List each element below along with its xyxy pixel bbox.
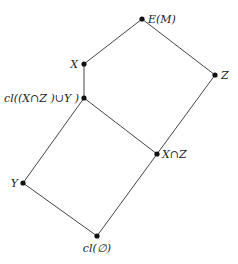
- node-label-z: Z: [220, 69, 229, 82]
- edge-cl_xz_y-x_cap_z: [84, 98, 157, 154]
- node-top: [139, 16, 144, 21]
- node-label-x: X: [69, 58, 79, 71]
- node-label-bottom: cl(∅): [83, 242, 111, 255]
- node-x: [81, 61, 86, 66]
- node-label-top: E(M): [147, 13, 176, 26]
- node-label-cl_xz_y: cl((X∩Z )∪Y ): [4, 92, 79, 105]
- node-label-y: Y: [11, 177, 20, 190]
- node-z: [212, 72, 217, 77]
- edge-y-bottom: [23, 183, 97, 236]
- node-cl_xz_y: [81, 95, 86, 100]
- edge-top-z: [142, 19, 215, 75]
- edge-x_cap_z-bottom: [97, 154, 157, 236]
- edge-top-x: [84, 19, 142, 64]
- node-x_cap_z: [154, 151, 159, 156]
- edge-cl_xz_y-y: [23, 98, 84, 183]
- node-label-x_cap_z: X∩Z: [161, 148, 187, 161]
- node-bottom: [94, 233, 99, 238]
- edge-z-x_cap_z: [157, 75, 215, 154]
- node-y: [20, 180, 25, 185]
- labels: E(M)XZcl((X∩Z )∪Y )X∩ZYcl(∅): [4, 13, 229, 255]
- lattice-diagram: E(M)XZcl((X∩Z )∪Y )X∩ZYcl(∅): [0, 0, 238, 264]
- edges: [23, 19, 215, 236]
